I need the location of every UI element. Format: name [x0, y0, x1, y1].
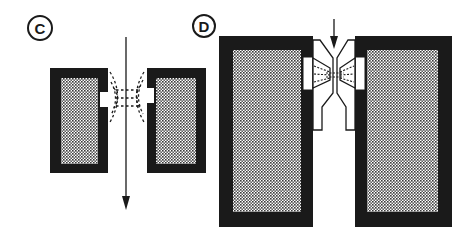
panel-c-right-magnet	[145, 68, 206, 173]
panel-d-label: D	[193, 15, 215, 37]
panel-d-left-pole-tip	[313, 40, 333, 130]
panel-d-label-text: D	[199, 18, 210, 35]
panel-c-label-text: C	[35, 20, 46, 37]
panel-c-arrow	[122, 37, 130, 210]
panel-d-arrow	[330, 19, 338, 49]
panel-d-right-magnet	[355, 36, 452, 227]
panel-d-left-magnet	[219, 36, 313, 227]
diagram-canvas: C D	[0, 0, 476, 251]
panel-c-label: C	[28, 16, 52, 40]
panel-c-left-magnet	[50, 68, 110, 173]
panel-c-field-lines	[110, 72, 144, 122]
panel-d-right-pole-tip	[337, 40, 355, 130]
